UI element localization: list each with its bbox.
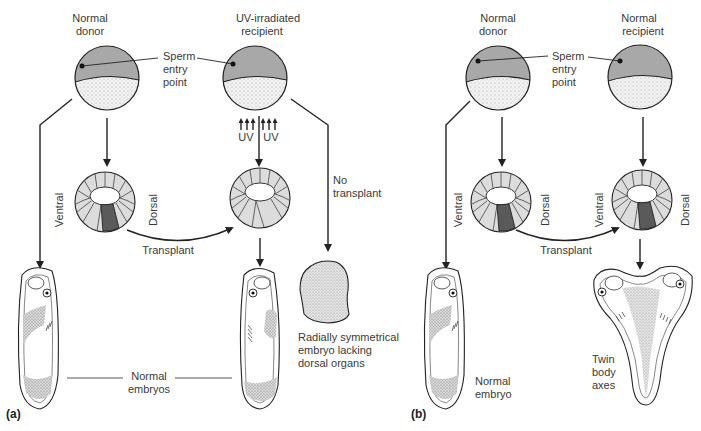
donor-egg-a [75, 46, 139, 110]
recipient-title-a-2: recipient [241, 25, 283, 37]
transplant-arrow-a [127, 228, 232, 241]
sperm-label-b-2: entry [552, 63, 577, 75]
ventral-label-a: Ventral [53, 193, 65, 227]
donor-title-b-2: donor [479, 25, 507, 37]
radially-symmetric-embryo [300, 261, 349, 323]
normal-embryo-label-b-2: embryo [475, 388, 512, 400]
panel-b: Normal donor Normal recipient Sperm entr… [411, 12, 692, 421]
normal-embryos-label: Normal [131, 370, 166, 382]
radial-label-2: embryo lacking [298, 344, 372, 356]
no-transplant-label: No [333, 174, 347, 186]
ventral-label-b-left: Ventral [452, 193, 464, 227]
dorsal-label-b-right: Dorsal [679, 194, 691, 226]
dorsal-label-a: Dorsal [147, 194, 159, 226]
recipient-egg-a [223, 46, 287, 110]
normal-embryos-label-2: embryos [128, 383, 171, 395]
twin-label: Twin [592, 353, 615, 365]
sperm-label-a-3: point [163, 76, 187, 88]
uv-label: UV [238, 131, 254, 143]
no-transplant-label-2: transplant [333, 187, 381, 199]
donor-egg-b [466, 46, 530, 110]
embryo-transplant-diagram: Normal donor UV-irradiated recipient Spe… [0, 0, 701, 431]
transplant-arrow-b [516, 228, 618, 241]
sperm-label-a-2: entry [163, 63, 188, 75]
twin-label-2: body [592, 366, 616, 378]
radial-label: Radially symmetrical [298, 331, 399, 343]
normal-embryo-b [424, 268, 464, 409]
sperm-label-b: Sperm [552, 50, 584, 62]
donor-blastula-a [75, 172, 135, 232]
recipient-title-b: Normal [621, 12, 656, 24]
recipient-title-a: UV-irradiated [236, 12, 300, 24]
sperm-label-b-3: point [552, 76, 576, 88]
panel-a: Normal donor UV-irradiated recipient Spe… [6, 12, 399, 421]
transplant-label-b: Transplant [540, 244, 592, 256]
donor-blastula-b [471, 172, 531, 232]
twin-label-3: axes [592, 379, 616, 391]
donor-title-a: Normal [72, 12, 107, 24]
normal-embryo-a-left [18, 268, 58, 409]
recipient-blastula-b [612, 170, 672, 230]
panel-b-label: (b) [411, 407, 426, 421]
panel-a-label: (a) [6, 407, 21, 421]
recipient-egg-b [608, 45, 672, 109]
ventral-label-b-right: Ventral [593, 193, 605, 227]
sperm-label-a: Sperm [163, 50, 195, 62]
normal-embryo-a-right [240, 268, 279, 409]
transplant-label-a: Transplant [142, 244, 194, 256]
uv-label: UV [263, 131, 279, 143]
donor-title-a-2: donor [76, 25, 104, 37]
dorsal-label-b-left: Dorsal [539, 194, 551, 226]
radial-label-3: dorsal organs [298, 357, 365, 369]
donor-title-b: Normal [480, 12, 515, 24]
normal-embryo-label-b: Normal [475, 375, 510, 387]
recipient-blastula-a [230, 168, 290, 228]
recipient-title-b-2: recipient [622, 25, 664, 37]
uv-arrows [241, 120, 275, 130]
